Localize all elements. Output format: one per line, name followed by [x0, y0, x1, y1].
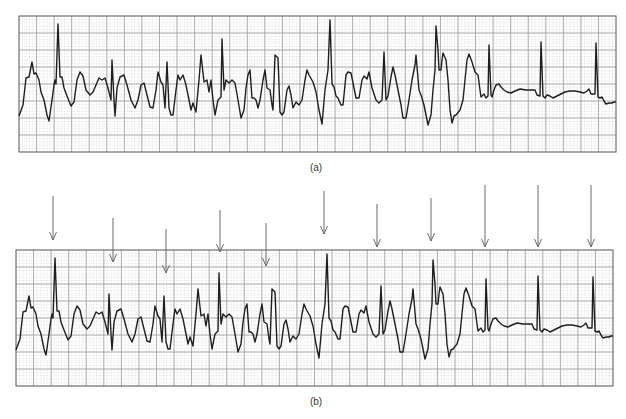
down-arrow-icon [110, 218, 117, 262]
down-arrow-icon [217, 210, 224, 252]
down-arrow-icon [428, 198, 435, 241]
ecg-figure [0, 0, 626, 419]
ecg-panel-b [16, 250, 613, 386]
panel-label-b: (b) [310, 396, 322, 407]
panel-label-a: (a) [310, 162, 322, 173]
beat-arrows [50, 185, 595, 273]
down-arrow-icon [50, 196, 57, 240]
down-arrow-icon [535, 185, 542, 247]
ecg-panel-a [19, 16, 616, 152]
down-arrow-icon [482, 185, 489, 247]
down-arrow-icon [321, 191, 328, 234]
down-arrow-icon [588, 185, 595, 247]
down-arrow-icon [374, 204, 381, 247]
down-arrow-icon [263, 223, 270, 266]
